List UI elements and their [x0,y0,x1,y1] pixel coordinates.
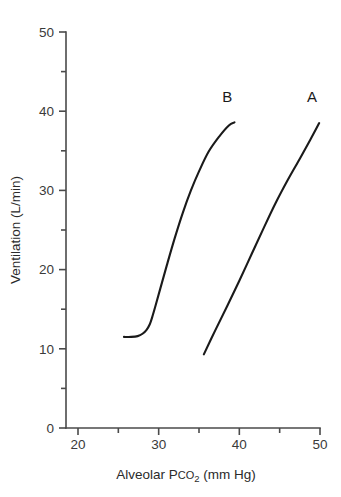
y-tick-label: 50 [39,25,54,40]
x-tick-label: 50 [312,437,327,452]
y-tick-label: 40 [39,104,54,119]
x-axis-title-suffix: (mm Hg) [200,467,256,482]
curve-label-b: B [222,88,232,105]
y-tick-label: 30 [39,183,54,198]
y-tick-label: 0 [46,421,54,436]
ventilation-co2-response-chart: 01020304050 20304050 BA Ventilation (L/m… [0,0,341,497]
y-tick-label: 20 [39,262,54,277]
x-axis-title-smallcaps: CO [178,469,195,481]
y-tick-label: 10 [39,342,54,357]
x-tick-label: 30 [151,437,166,452]
x-tick-label: 20 [70,437,85,452]
y-axis-title: Ventilation (L/min) [8,176,23,284]
x-tick-label: 40 [232,437,247,452]
x-axis-title-prefix: Alveolar P [116,467,178,482]
curve-label-a: A [307,88,317,105]
